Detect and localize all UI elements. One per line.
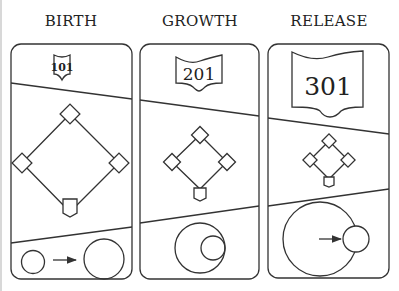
panel-birth — [11, 44, 132, 279]
lifecycle-diagram: 101 201 301 — [0, 0, 399, 291]
baseball-diamond-icon — [164, 127, 236, 201]
baseball-diamond-icon — [12, 104, 129, 217]
badge-number-growth: 201 — [183, 64, 215, 84]
badge-number-release: 301 — [304, 72, 352, 101]
small-circle-to-large-circle-icon — [22, 239, 125, 279]
circle-inside-circle-icon — [175, 223, 225, 273]
circle-release-icon — [283, 202, 369, 276]
badge-number-birth: 101 — [51, 61, 74, 74]
baseball-diamond-icon — [303, 134, 355, 187]
